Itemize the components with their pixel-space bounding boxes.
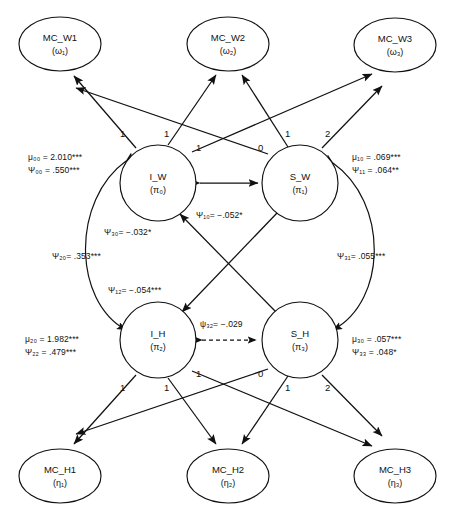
param-mu30: μ₃₀ = .057***: [352, 333, 401, 346]
node-mc-h3-label: MC_H3: [379, 464, 411, 475]
node-s-h-label: S_H: [291, 328, 310, 339]
node-i-h-shape: [120, 302, 196, 378]
param-psi11: Ψ₁₁ = .064**: [352, 164, 401, 177]
node-mc-h1-shape: [19, 449, 101, 503]
param-block-s-w: μ₁₀ = .069*** Ψ₁₁ = .064**: [352, 151, 401, 177]
node-mc-w3-label: MC_W3: [378, 33, 412, 44]
loading-label-iw-3: 1: [196, 142, 201, 153]
node-i-w-sub: (π₀): [150, 185, 166, 195]
param-mu20: μ₂₀ = 1.982***: [25, 333, 79, 346]
node-mc-w2-shape: [187, 17, 269, 71]
node-i-h-sub: (π₂): [150, 342, 166, 352]
param-block-s-h: μ₃₀ = .057*** Ψ₃₃ = .048*: [352, 333, 401, 359]
node-mc-w3-shape: [354, 18, 436, 72]
node-s-w-shape: [262, 145, 338, 221]
path-ih-to-mch3: [192, 371, 372, 446]
node-mc-h1-sub: (η₁): [53, 478, 67, 488]
latent-nodes: I_W (π₀) S_W (π₁) I_H (π₂) S_H (π₃): [120, 145, 338, 378]
node-mc-w1-shape: [19, 17, 101, 71]
cov-sw-sh: [333, 163, 374, 330]
loading-label-sw-3: 2: [325, 128, 330, 139]
param-psi22: Ψ₂₂ = .479***: [25, 346, 79, 359]
cov-label-psi20: Ψ₂₀= .353***: [52, 250, 101, 263]
node-mc-w3[interactable]: MC_W3 (ω₃): [354, 18, 436, 72]
node-mc-w2[interactable]: MC_W2 (ω₂): [187, 17, 269, 71]
node-i-w[interactable]: I_W (π₀): [120, 145, 196, 221]
node-mc-h2-label: MC_H2: [212, 464, 244, 475]
path-sw-to-mcw1: [76, 88, 268, 154]
cov-label-psi31: Ψ₃₁= .055***: [337, 250, 385, 263]
node-i-w-label: I_W: [150, 171, 167, 182]
loading-paths-lower: [74, 369, 382, 446]
node-mc-h1[interactable]: MC_H1 (η₁): [19, 449, 101, 503]
node-mc-h3[interactable]: MC_H3 (η₃): [354, 449, 436, 503]
loading-label-ih-2: 1: [164, 382, 169, 393]
node-s-h-sub: (π₃): [292, 342, 308, 352]
node-s-w[interactable]: S_W (π₁): [262, 145, 338, 221]
node-mc-w2-sub: (ω₂): [220, 46, 237, 56]
loading-label-iw-1: 1: [120, 128, 125, 139]
cov-label-psi30: Ψ₃₀= −.032*: [104, 226, 151, 239]
param-mu00: μ₀₀ = 2.010***: [28, 151, 82, 164]
node-mc-w1[interactable]: MC_W1 (ω₁): [19, 17, 101, 71]
node-mc-h3-shape: [354, 449, 436, 503]
node-i-w-shape: [120, 145, 196, 221]
loading-label-sw-1: 0: [258, 142, 263, 153]
node-s-h-shape: [262, 302, 338, 378]
loading-label-ih-3: 1: [196, 368, 201, 379]
path-sh-to-mch1: [76, 369, 268, 434]
cov-label-psi32: ψ₃₂= −.029: [200, 318, 243, 331]
loading-label-sw-2: 1: [285, 128, 290, 139]
path-iw-to-mcw2: [168, 75, 216, 145]
node-mc-w3-sub: (ω₃): [387, 47, 404, 57]
node-mc-h3-sub: (η₃): [388, 478, 403, 488]
path-sh-to-mch2: [242, 376, 288, 444]
param-psi00: Ψ₀₀ = .550***: [28, 164, 82, 177]
loading-label-sh-2: 1: [285, 382, 290, 393]
node-s-w-label: S_W: [290, 171, 311, 182]
node-mc-h2-sub: (η₂): [221, 478, 236, 488]
path-sw-to-mcw2: [242, 75, 288, 147]
node-mc-h2-shape: [187, 449, 269, 503]
path-ih-to-mch1: [74, 375, 136, 444]
param-block-i-h: μ₂₀ = 1.982*** Ψ₂₂ = .479***: [25, 333, 79, 359]
param-psi33: Ψ₃₃ = .048*: [352, 346, 401, 359]
loading-label-iw-2: 1: [164, 128, 169, 139]
node-mc-h2[interactable]: MC_H2 (η₂): [187, 449, 269, 503]
node-s-h[interactable]: S_H (π₃): [262, 302, 338, 378]
node-mc-w1-sub: (ω₁): [52, 46, 68, 56]
path-iw-to-mcw1: [74, 76, 136, 148]
param-mu10: μ₁₀ = .069***: [352, 151, 401, 164]
cov-label-psi12: Ψ₁₂= −.054***: [108, 284, 161, 297]
path-sw-to-mcw3: [322, 86, 382, 148]
cov-sw-ih: [182, 212, 278, 312]
path-diagram-canvas: MC_W1 (ω₁) MC_W2 (ω₂) MC_W3 (ω₃) MC_H1 (…: [0, 0, 451, 519]
node-i-h-label: I_H: [151, 328, 166, 339]
loading-label-sh-3: 2: [325, 382, 330, 393]
node-i-h[interactable]: I_H (π₂): [120, 302, 196, 378]
node-mc-w1-label: MC_W1: [43, 32, 77, 43]
loading-label-sh-1: 0: [258, 368, 263, 379]
node-mc-w2-label: MC_W2: [211, 32, 245, 43]
node-mc-h1-label: MC_H1: [44, 464, 76, 475]
path-sh-to-mch3: [322, 375, 382, 436]
loading-label-ih-1: 1: [120, 382, 125, 393]
path-iw-to-mcw3: [192, 74, 372, 152]
param-block-i-w: μ₀₀ = 2.010*** Ψ₀₀ = .550***: [28, 151, 82, 177]
path-ih-to-mch2: [168, 378, 216, 444]
node-s-w-sub: (π₁): [292, 185, 307, 195]
loading-paths-upper: [74, 74, 382, 154]
cov-label-psi10: Ψ₁₀= −.052*: [196, 209, 243, 222]
